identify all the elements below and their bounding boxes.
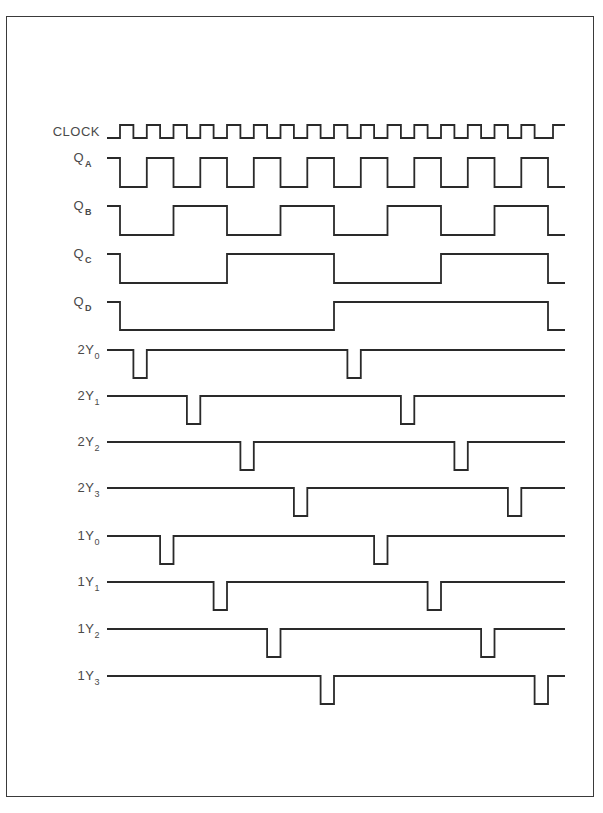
label-2y2: 2Y2 [30, 434, 100, 449]
label-text: Q [73, 246, 84, 261]
label-text: 1Y [78, 668, 95, 683]
waveform-1y2 [107, 629, 565, 657]
label-qb: QB [22, 198, 92, 213]
label-text: 1Y [78, 621, 95, 636]
waveform-clock [107, 125, 565, 138]
label-text: 1Y [78, 528, 95, 543]
waveform-1y0 [107, 536, 565, 564]
label-text: CLOCK [53, 124, 100, 139]
label-text: 1Y [78, 574, 95, 589]
label-text: 2Y [78, 480, 95, 495]
label-text: Q [73, 294, 84, 309]
label-qd: QD [22, 294, 92, 309]
label-subscript: A [85, 159, 92, 169]
label-subscript: 0 [94, 537, 100, 547]
label-qc: QC [22, 246, 92, 261]
label-subscript: B [85, 207, 92, 217]
waveform-qa [107, 158, 565, 187]
label-clock: CLOCK [30, 124, 100, 139]
waveform-1y3 [107, 676, 565, 704]
timing-diagram [0, 0, 603, 813]
label-subscript: 2 [94, 443, 100, 453]
label-1y0: 1Y0 [30, 528, 100, 543]
label-subscript: 1 [94, 397, 100, 407]
waveform-2y0 [107, 350, 565, 378]
label-subscript: D [85, 303, 92, 313]
label-text: Q [73, 150, 84, 165]
label-2y3: 2Y3 [30, 480, 100, 495]
label-text: Q [73, 198, 84, 213]
label-1y2: 1Y2 [30, 621, 100, 636]
label-subscript: 3 [94, 489, 100, 499]
label-subscript: C [85, 255, 92, 265]
label-2y1: 2Y1 [30, 388, 100, 403]
waveform-qb [107, 206, 565, 235]
label-text: 2Y [78, 342, 95, 357]
label-1y3: 1Y3 [30, 668, 100, 683]
label-subscript: 0 [94, 351, 100, 361]
waveform-2y3 [107, 488, 565, 516]
label-2y0: 2Y0 [30, 342, 100, 357]
label-1y1: 1Y1 [30, 574, 100, 589]
waveform-2y1 [107, 396, 565, 424]
label-subscript: 3 [94, 677, 100, 687]
waveform-qc [107, 254, 565, 283]
waveform-2y2 [107, 442, 565, 470]
waveform-1y1 [107, 582, 565, 610]
label-subscript: 2 [94, 630, 100, 640]
label-text: 2Y [78, 434, 95, 449]
label-subscript: 1 [94, 583, 100, 593]
waveform-qd [107, 302, 565, 330]
label-qa: QA [22, 150, 92, 165]
label-text: 2Y [78, 388, 95, 403]
